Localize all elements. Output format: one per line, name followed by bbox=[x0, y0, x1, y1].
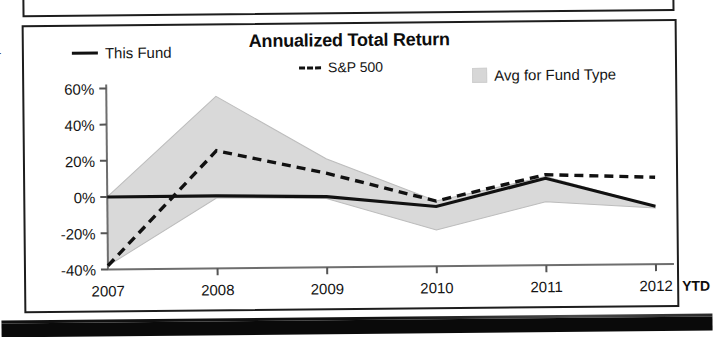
return-line-chart: -40%-20%0%20%40%60% 20072008200920102011… bbox=[24, 21, 682, 315]
svg-text:60%: 60% bbox=[64, 81, 94, 98]
margin-glyph: r bbox=[0, 49, 7, 61]
svg-text:2010: 2010 bbox=[420, 279, 454, 296]
svg-text:-20%: -20% bbox=[61, 225, 96, 242]
plot-area: -40%-20%0%20%40%60% 20072008200920102011… bbox=[24, 21, 678, 311]
svg-text:2007: 2007 bbox=[91, 282, 125, 299]
svg-text:-40%: -40% bbox=[61, 261, 96, 278]
svg-text:2011: 2011 bbox=[530, 278, 562, 295]
scanned-page: r Annualized Total Return This Fund S&P … bbox=[0, 0, 713, 337]
svg-text:2012: 2012 bbox=[639, 277, 673, 294]
avg-fund-type-band bbox=[106, 92, 656, 266]
x-axis-labels: 200720082009201020112012YTD bbox=[91, 277, 710, 300]
svg-text:20%: 20% bbox=[65, 153, 95, 170]
top-empty-panel bbox=[22, 0, 674, 17]
svg-text:40%: 40% bbox=[64, 117, 94, 134]
y-axis-labels: -40%-20%0%20%40%60% bbox=[59, 81, 96, 279]
svg-text:YTD: YTD bbox=[682, 278, 710, 294]
chart-panel: Annualized Total Return This Fund S&P 50… bbox=[22, 19, 680, 313]
svg-text:2008: 2008 bbox=[201, 281, 235, 298]
svg-text:2009: 2009 bbox=[311, 280, 345, 297]
svg-text:0%: 0% bbox=[74, 189, 96, 206]
